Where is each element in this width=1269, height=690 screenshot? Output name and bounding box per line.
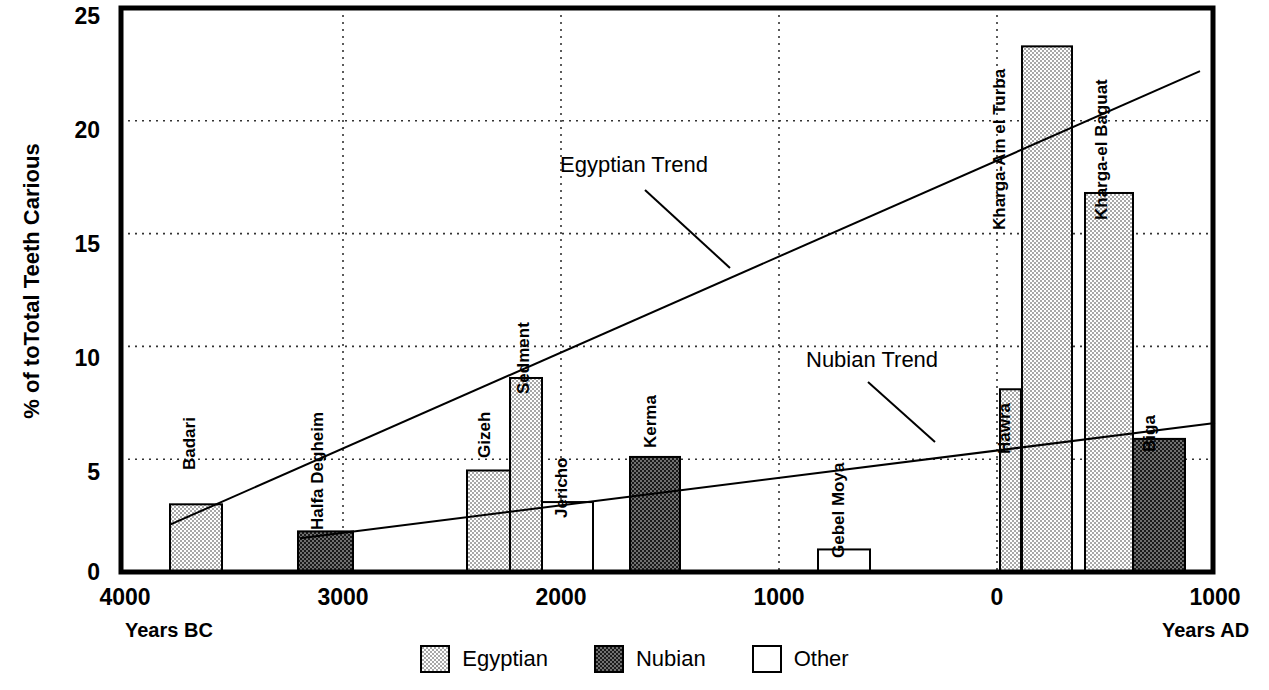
- bar-label: Biga: [1140, 415, 1160, 452]
- legend-item-other: Other: [752, 645, 849, 673]
- legend-label-other: Other: [794, 646, 849, 672]
- bar-label: Halfa Degheim: [308, 412, 328, 530]
- bar-label: Badari: [180, 417, 200, 470]
- bar-label: Gebel Moya: [829, 463, 849, 558]
- caries-bar-chart: % of toTotal Teeth Carious 25 20 15 10 5…: [0, 0, 1269, 690]
- legend-swatch-other: [752, 645, 782, 673]
- legend-label-nubian: Nubian: [636, 646, 706, 672]
- legend-swatch-egyptian: [420, 645, 450, 673]
- bar-label: Hawra: [995, 403, 1015, 454]
- plot-area: [0, 0, 1269, 690]
- legend-label-egyptian: Egyptian: [462, 646, 548, 672]
- bar-label: Kerma: [641, 395, 661, 448]
- bar-label: Jericho: [552, 458, 572, 518]
- legend-item-egyptian: Egyptian: [420, 645, 548, 673]
- legend-item-nubian: Nubian: [594, 645, 706, 673]
- legend-swatch-nubian: [594, 645, 624, 673]
- bar-label: Gizeh: [475, 412, 495, 458]
- bar-label: Kharga-el Baguat: [1092, 79, 1112, 220]
- nubian-trend-label: Nubian Trend: [806, 347, 938, 373]
- egyptian-trend-label: Egyptian Trend: [560, 152, 708, 178]
- chart-legend: Egyptian Nubian Other: [0, 645, 1269, 673]
- bar-label: Sedment: [514, 322, 534, 394]
- bar-label: Kharga-Ain el Turba: [990, 69, 1010, 230]
